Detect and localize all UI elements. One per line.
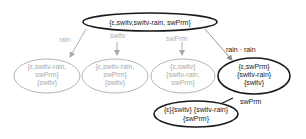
node-final-line-0: {ε}{switv} {switv-rain}: [164, 106, 229, 114]
edge-label-final-swPrm: swPrm: [240, 98, 262, 105]
node-root: {ε,switv,switv-rain, swPrm}: [83, 13, 217, 31]
state-space-diagram: rain switv swPrm rain · rain swPrm {ε,sw…: [0, 0, 306, 139]
edge-label-rain-rain: rain · rain: [226, 46, 256, 53]
node-after-swPrm: {ε,switv} {switv-rain, swPrm}: [151, 59, 215, 93]
node-final-line-1: {swPrm}: [183, 115, 210, 123]
node-after-rain-rain: {ε,swPrm} {switv-rain} {switv}: [218, 58, 290, 94]
node-after-switv-line-2: {switv}: [105, 79, 126, 87]
node-after-switv-line-1: swPrm}: [103, 71, 127, 79]
node-after-swPrm-line-0: {ε,switv}: [170, 63, 196, 71]
edge-label-rain: rain: [59, 36, 71, 43]
node-after-swPrm-line-2: swPrm}: [171, 79, 195, 87]
node-after-rain-line-0: {ε,switv-rain,: [28, 63, 67, 71]
edge-rain-rain: [205, 29, 232, 60]
edge-label-switv: switv: [110, 32, 126, 39]
node-root-line-0: {ε,switv,switv-rain, swPrm}: [109, 19, 191, 27]
node-after-switv-line-0: {ε,switv-rain,: [96, 63, 135, 71]
node-after-rain-line-2: {switv}: [37, 79, 58, 87]
node-after-switv: {ε,switv-rain, swPrm} {switv}: [82, 59, 148, 93]
node-after-rain-rain-line-2: {switv}: [244, 79, 265, 87]
node-final: {ε}{switv} {switv-rain} {swPrm}: [154, 101, 238, 127]
edge-rain: [70, 29, 86, 57]
edge-label-swPrm: swPrm: [166, 35, 188, 42]
node-after-swPrm-line-1: {switv-rain,: [166, 71, 200, 79]
node-after-rain-rain-line-1: {switv-rain}: [237, 71, 272, 79]
node-after-rain: {ε,switv-rain, swPrm} {switv}: [14, 59, 80, 93]
node-after-rain-line-1: swPrm}: [35, 71, 59, 79]
node-after-rain-rain-line-0: {ε,swPrm}: [238, 63, 270, 71]
